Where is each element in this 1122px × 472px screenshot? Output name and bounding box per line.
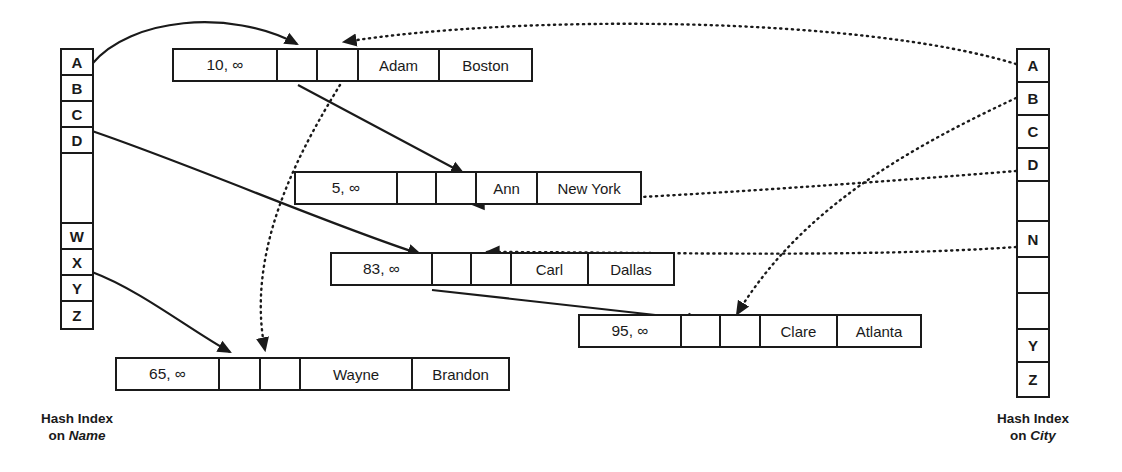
record-name: Clare [761, 316, 838, 346]
hash-index-name-caption-line2-prefix: on [48, 428, 68, 443]
hash-index-on-city: ABCDNYZ [1016, 48, 1050, 398]
record-city: New York [538, 173, 640, 203]
city-index-cell-z[interactable]: Z [1018, 363, 1048, 396]
name-index-cell-x[interactable]: X [62, 250, 92, 276]
record-name: Adam [359, 50, 440, 80]
hash-index-on-name: ABCDWXYZ [60, 48, 94, 330]
record-pointer-city[interactable] [318, 50, 359, 80]
record-pointer-name[interactable] [220, 359, 261, 389]
record-timestamp: 83, ∞ [332, 254, 433, 284]
city-index-cell-empty-7[interactable] [1018, 294, 1048, 330]
record-name: Ann [477, 173, 538, 203]
city-index-cell-empty-6[interactable] [1018, 258, 1048, 294]
record-pointer-city[interactable] [261, 359, 302, 389]
hash-index-name-caption-field: Name [69, 428, 106, 443]
record-city: Boston [440, 50, 531, 80]
record-pointer-city[interactable] [721, 316, 761, 346]
record-pointer-name[interactable] [682, 316, 722, 346]
record-timestamp: 10, ∞ [174, 50, 278, 80]
name-index-cell-c[interactable]: C [62, 102, 92, 128]
record-city: Atlanta [838, 316, 920, 346]
record-timestamp: 65, ∞ [117, 359, 220, 389]
diagram-canvas: ABCDWXYZ Hash Index on Name ABCDNYZ Hash… [0, 0, 1122, 472]
hash-index-city-caption-field: City [1030, 428, 1056, 443]
name-index-cell-y[interactable]: Y [62, 276, 92, 302]
record-name: Carl [512, 254, 589, 284]
city-index-cell-d[interactable]: D [1018, 149, 1048, 182]
city-index-cell-empty-4[interactable] [1018, 182, 1048, 222]
name-index-cell-z[interactable]: Z [62, 302, 92, 328]
city-index-cell-a[interactable]: A [1018, 50, 1048, 83]
name-index-cell-b[interactable]: B [62, 76, 92, 102]
hash-index-city-caption-line1: Hash Index [997, 411, 1069, 426]
hash-index-city-caption: Hash Index on City [973, 410, 1093, 445]
city-index-cell-c[interactable]: C [1018, 116, 1048, 149]
name-index-cell-a[interactable]: A [62, 50, 92, 76]
record-row-adam[interactable]: 10, ∞ Adam Boston [172, 48, 533, 82]
name-index-cell-w[interactable]: W [62, 224, 92, 250]
record-name: Wayne [301, 359, 413, 389]
record-row-carl[interactable]: 83, ∞ Carl Dallas [330, 252, 675, 286]
record-row-clare[interactable]: 95, ∞ Clare Atlanta [578, 314, 922, 348]
edge-name-W-to-wayne [92, 272, 230, 352]
hash-index-name-caption: Hash Index on Name [17, 410, 137, 445]
record-city: Dallas [589, 254, 673, 284]
city-index-cell-y[interactable]: Y [1018, 330, 1048, 363]
record-pointer-name[interactable] [398, 173, 438, 203]
record-row-ann[interactable]: 5, ∞ Ann New York [294, 171, 642, 205]
record-pointer-city[interactable] [437, 173, 477, 203]
name-index-cell-d[interactable]: D [62, 128, 92, 154]
hash-index-city-caption-line2-prefix: on [1010, 428, 1030, 443]
edge-city-B-to-clare [737, 98, 1016, 314]
edge-adam-to-ann [298, 85, 463, 173]
record-pointer-name[interactable] [278, 50, 319, 80]
record-city: Brandon [413, 359, 508, 389]
hash-index-name-caption-line1: Hash Index [41, 411, 113, 426]
record-pointer-city[interactable] [472, 254, 512, 284]
record-timestamp: 95, ∞ [580, 316, 682, 346]
connector-layer [0, 0, 1122, 472]
record-timestamp: 5, ∞ [296, 173, 398, 203]
city-index-cell-n[interactable]: N [1018, 222, 1048, 258]
name-index-cell-empty-4[interactable] [62, 154, 92, 224]
record-row-wayne[interactable]: 65, ∞ Wayne Brandon [115, 357, 510, 391]
city-index-cell-b[interactable]: B [1018, 83, 1048, 116]
record-pointer-name[interactable] [433, 254, 473, 284]
edge-adam-to-wayne [261, 85, 340, 350]
